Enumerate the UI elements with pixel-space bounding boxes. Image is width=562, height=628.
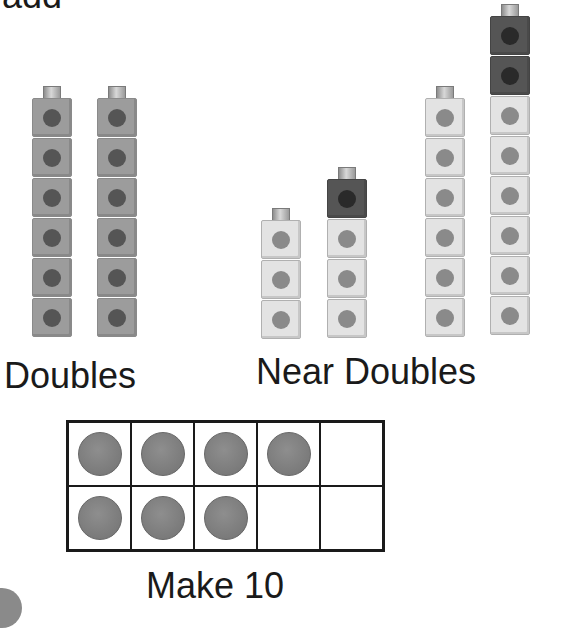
ten-frame-cell xyxy=(257,422,320,486)
ten-frame-cell xyxy=(68,486,131,550)
ten-frame-cell xyxy=(131,486,194,550)
gray-connecting-cube xyxy=(32,138,72,177)
gray-connecting-cube xyxy=(97,138,137,177)
light-connecting-cube xyxy=(327,259,367,298)
light-connecting-cube xyxy=(425,298,465,337)
cube-connector-peg xyxy=(108,86,126,98)
cube-dot-icon xyxy=(43,229,61,247)
light-connecting-cube xyxy=(490,256,530,295)
cube-dot-icon xyxy=(43,149,61,167)
cube-dot-icon xyxy=(501,187,519,205)
gray-connecting-cube xyxy=(32,298,72,337)
counter-icon xyxy=(204,496,248,540)
gray-connecting-cube xyxy=(32,218,72,257)
cube-dot-icon xyxy=(43,309,61,327)
cube-connector-peg xyxy=(436,86,454,98)
cube-dot-icon xyxy=(272,271,290,289)
light-connecting-cube xyxy=(490,296,530,335)
cube-dot-icon xyxy=(501,147,519,165)
doubles-stack-right xyxy=(97,86,137,338)
cube-dot-icon xyxy=(43,269,61,287)
cube-dot-icon xyxy=(43,109,61,127)
near-doubles-stack-4 xyxy=(327,167,367,339)
make-ten-label: Make 10 xyxy=(146,566,284,606)
cube-dot-icon xyxy=(436,269,454,287)
light-connecting-cube xyxy=(490,96,530,135)
cube-dot-icon xyxy=(338,230,356,248)
dark-connecting-cube xyxy=(490,56,530,95)
light-connecting-cube xyxy=(425,258,465,297)
light-connecting-cube xyxy=(425,98,465,137)
cube-connector-peg xyxy=(43,86,61,98)
light-connecting-cube xyxy=(490,216,530,255)
light-connecting-cube xyxy=(327,299,367,338)
cube-dot-icon xyxy=(501,227,519,245)
near-doubles-stack-3 xyxy=(261,208,301,340)
counter-icon xyxy=(204,432,248,476)
ten-frame-cell xyxy=(194,422,257,486)
cube-dot-icon xyxy=(436,189,454,207)
ten-frame-cell xyxy=(194,486,257,550)
gray-connecting-cube xyxy=(32,178,72,217)
light-connecting-cube xyxy=(490,136,530,175)
cube-dot-icon xyxy=(436,109,454,127)
cube-dot-icon xyxy=(501,267,519,285)
counter-icon xyxy=(141,496,185,540)
doubles-label: Doubles xyxy=(4,356,136,396)
cube-connector-peg xyxy=(272,208,290,220)
counter-icon xyxy=(78,432,122,476)
gray-connecting-cube xyxy=(32,258,72,297)
cube-dot-icon xyxy=(501,307,519,325)
ten-frame xyxy=(66,420,385,552)
near-doubles-label: Near Doubles xyxy=(256,352,476,392)
near-doubles-stack-6 xyxy=(425,86,465,338)
light-connecting-cube xyxy=(490,176,530,215)
light-connecting-cube xyxy=(261,300,301,339)
counter-icon xyxy=(78,496,122,540)
cube-dot-icon xyxy=(436,149,454,167)
cube-dot-icon xyxy=(108,269,126,287)
cube-dot-icon xyxy=(436,229,454,247)
partial-heading-text: add xyxy=(2,0,62,14)
gray-connecting-cube xyxy=(97,258,137,297)
cube-dot-icon xyxy=(436,309,454,327)
cube-dot-icon xyxy=(108,309,126,327)
light-connecting-cube xyxy=(327,219,367,258)
ten-frame-cell xyxy=(131,422,194,486)
cube-dot-icon xyxy=(108,229,126,247)
dark-connecting-cube xyxy=(490,16,530,55)
light-connecting-cube xyxy=(425,178,465,217)
cube-dot-icon xyxy=(338,270,356,288)
gray-connecting-cube xyxy=(97,298,137,337)
counter-icon xyxy=(267,432,311,476)
cube-dot-icon xyxy=(108,189,126,207)
gray-connecting-cube xyxy=(32,98,72,137)
ten-frame-cell xyxy=(320,486,383,550)
light-connecting-cube xyxy=(261,260,301,299)
ten-frame-cell xyxy=(68,422,131,486)
cube-dot-icon xyxy=(501,67,519,85)
cube-connector-peg xyxy=(338,167,356,179)
cube-dot-icon xyxy=(501,107,519,125)
counter-icon xyxy=(141,432,185,476)
near-doubles-stack-8 xyxy=(490,4,530,336)
cube-dot-icon xyxy=(108,149,126,167)
doubles-stack-left xyxy=(32,86,72,338)
light-connecting-cube xyxy=(425,138,465,177)
light-connecting-cube xyxy=(261,220,301,259)
cube-dot-icon xyxy=(338,190,356,208)
dark-connecting-cube xyxy=(327,179,367,218)
gray-connecting-cube xyxy=(97,218,137,257)
cube-dot-icon xyxy=(43,189,61,207)
gray-connecting-cube xyxy=(97,98,137,137)
cube-dot-icon xyxy=(338,310,356,328)
cube-dot-icon xyxy=(272,311,290,329)
cube-dot-icon xyxy=(108,109,126,127)
ten-frame-cell xyxy=(320,422,383,486)
page-marker-circle xyxy=(0,588,22,628)
light-connecting-cube xyxy=(425,218,465,257)
gray-connecting-cube xyxy=(97,178,137,217)
cube-dot-icon xyxy=(272,231,290,249)
cube-dot-icon xyxy=(501,27,519,45)
ten-frame-cell xyxy=(257,486,320,550)
